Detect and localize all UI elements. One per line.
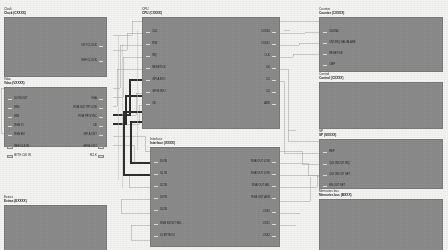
block-memories-bus-body[interactable] <box>319 199 443 250</box>
pin-interface-d1-in[interactable]: D1 IN <box>153 173 167 177</box>
pin-pad-icon[interactable] <box>271 197 276 200</box>
pin-pad-icon[interactable] <box>271 211 276 214</box>
pin-interface-rgb-out-adr[interactable]: RGB OUT ADR <box>251 197 276 201</box>
block-extras[interactable]: Extras Extras (EXXXX) <box>4 196 107 250</box>
pin-video-rgb-en[interactable]: RGB EN <box>7 134 24 138</box>
block-memories-bus[interactable]: Memories bus Memories bus (MXXX) <box>319 190 443 250</box>
pin-cpu-gpi-b-in[interactable]: GPI B IN/O <box>145 91 165 95</box>
pin-cpu-d2[interactable]: D2 <box>266 91 276 95</box>
block-sp[interactable]: SP SP (SXXXX) REF CLK IN/OUT IRQ CLK IN/… <box>319 130 443 189</box>
pin-pad-icon[interactable] <box>7 125 12 128</box>
pin-interface-d0-in[interactable]: D0 IN <box>153 161 167 165</box>
block-control-body[interactable] <box>319 82 443 129</box>
pin-pad-icon[interactable] <box>271 55 276 58</box>
pin-cpu-adr[interactable]: ADR <box>264 103 277 107</box>
pin-interface-rgb-out-low-0[interactable]: RGB OUT LOW <box>251 161 277 165</box>
pin-pad-icon[interactable] <box>145 103 150 106</box>
pin-cpu-gpi-a-in[interactable]: GPI A IN/O <box>145 79 165 83</box>
pin-interface-cxx2[interactable]: CXX2 <box>263 235 277 239</box>
block-extras-body[interactable] <box>4 205 107 250</box>
pin-interface-rgb-out-sel[interactable]: RGB OUT SEL <box>252 185 277 189</box>
pin-interface-d2-in[interactable]: D2 IN <box>153 185 167 189</box>
pin-pad-icon[interactable] <box>145 55 150 58</box>
pin-pad-icon[interactable] <box>271 161 276 164</box>
pin-pad-icon[interactable] <box>271 67 276 70</box>
block-clock-body[interactable]: OUT CLOCK REF CLOCK <box>4 17 107 77</box>
pin-clock-ref-clock[interactable]: REF CLOCK <box>81 60 103 64</box>
pin-video-rgb-out-pp-low[interactable]: RGB OUT PP LOW <box>73 107 103 111</box>
pin-counter-cmp[interactable]: CMP <box>322 64 335 68</box>
pin-counter-reset-ce[interactable]: RESET/CE <box>322 53 342 57</box>
pin-cpu-cxxx0[interactable]: CXXX0 <box>261 31 277 35</box>
pin-interface-cxx0[interactable]: CXX0 <box>263 211 277 215</box>
block-clock[interactable]: Clock Clock (CXXXX) OUT CLOCK REF CLOCK <box>4 8 107 77</box>
pin-pad-icon[interactable] <box>98 98 103 101</box>
pin-interface-rgb-in-out-sel[interactable]: RGB IN/OUT SEL <box>153 223 181 227</box>
pin-cpu-irq[interactable]: IRQ <box>145 55 157 59</box>
pin-pad-icon[interactable] <box>271 91 276 94</box>
block-cpu[interactable]: CPU CPU (CXXXX) CLK R/W IRQ RESET/CS GPI… <box>142 8 280 129</box>
pin-cpu-cxxx1[interactable]: CXXX1 <box>261 43 277 47</box>
pin-clock-out-clock[interactable]: OUT CLOCK <box>81 45 104 49</box>
pin-pad-icon[interactable] <box>98 134 103 137</box>
pin-pad-icon[interactable] <box>271 173 276 176</box>
pin-pad-icon[interactable] <box>98 116 103 119</box>
pin-video-rclk[interactable]: RCLK <box>90 155 104 159</box>
pin-cpu-ce[interactable]: CE <box>145 103 156 107</box>
pin-video-gpi-a-out[interactable]: GPI A OUT <box>84 134 104 138</box>
pin-cpu-reset-cs[interactable]: RESET/CS <box>145 67 165 71</box>
pin-pad-icon[interactable] <box>322 42 327 45</box>
pin-pad-icon[interactable] <box>322 64 327 67</box>
pin-pad-icon[interactable] <box>98 60 103 63</box>
pin-pad-icon[interactable] <box>153 235 158 238</box>
pin-pad-icon[interactable] <box>98 45 103 48</box>
pin-pad-icon[interactable] <box>153 209 158 212</box>
pin-pad-icon[interactable] <box>271 103 276 106</box>
pin-sp-en-out-set[interactable]: EN OUT SET <box>322 185 345 189</box>
pin-pad-icon[interactable] <box>145 79 150 82</box>
pin-pad-icon[interactable] <box>145 31 150 34</box>
pin-pad-icon[interactable] <box>271 31 276 34</box>
block-interface-body[interactable]: D0 IN D1 IN D2 IN D3 IN D4 IN RGB IN/OUT… <box>150 147 280 247</box>
pin-pad-icon[interactable] <box>271 185 276 188</box>
pin-pad-icon[interactable] <box>153 173 158 176</box>
pin-counter-clkin0[interactable]: CLKIN0 <box>322 31 338 35</box>
pin-interface-rgb-out-low-1[interactable]: RGB OUT LOW <box>251 173 277 177</box>
pin-pad-icon[interactable] <box>7 107 12 110</box>
pin-cpu-clk-out[interactable]: CLK <box>265 55 277 59</box>
pin-pad-icon[interactable] <box>271 223 276 226</box>
pin-pad-icon[interactable] <box>271 43 276 46</box>
pin-pad-icon[interactable] <box>7 155 12 158</box>
pin-pad-icon[interactable] <box>7 116 12 119</box>
block-video[interactable]: Vdac Vdac (VXXXX) D0 IN/OUT EN0 EN1 RGB … <box>4 78 107 147</box>
block-counter-body[interactable]: CLKIN0 CNT/IRQ SEL/BLANK RESET/CE CMP <box>319 17 443 72</box>
pin-pad-icon[interactable] <box>322 163 327 166</box>
pin-pad-icon[interactable] <box>145 91 150 94</box>
pin-pad-icon[interactable] <box>322 151 327 154</box>
pin-pad-icon[interactable] <box>98 107 103 110</box>
pin-pad-icon[interactable] <box>322 174 327 177</box>
pin-pad-icon[interactable] <box>7 146 12 149</box>
pin-cpu-clk[interactable]: CLK <box>145 31 157 35</box>
pin-pad-icon[interactable] <box>271 235 276 238</box>
pin-pad-icon[interactable] <box>322 31 327 34</box>
pin-pad-icon[interactable] <box>153 197 158 200</box>
pin-pad-icon[interactable] <box>145 67 150 70</box>
pin-pad-icon[interactable] <box>153 185 158 188</box>
pin-interface-d4-in[interactable]: D4 IN <box>153 209 167 213</box>
pin-pad-icon[interactable] <box>153 223 158 226</box>
pin-video-d0-io[interactable]: D0 IN/OUT <box>7 98 27 102</box>
block-cpu-body[interactable]: CLK R/W IRQ RESET/CS GPI A IN/O GPI B IN… <box>142 17 280 129</box>
pin-pad-icon[interactable] <box>145 43 150 46</box>
pin-sp-clk-in-out-set[interactable]: CLK IN/OUT SET <box>322 174 350 178</box>
pin-video-gpi-b-out[interactable]: GPI B OUT <box>83 146 104 150</box>
block-sp-body[interactable]: REF CLK IN/OUT IRQ CLK IN/OUT SET EN OUT… <box>319 139 443 189</box>
block-interface[interactable]: Interface Interface (IXXXX) D0 IN D1 IN … <box>150 138 280 247</box>
block-control[interactable]: Control Control (CXXXX) <box>319 73 443 129</box>
pin-video-rgb-io[interactable]: RGB IO <box>7 125 23 129</box>
pin-interface-cxx1[interactable]: CXX1 <box>263 223 277 227</box>
pin-counter-cnt-irq-sel-blank[interactable]: CNT/IRQ SEL/BLANK <box>322 42 355 46</box>
pin-video-rgb-pp-sync[interactable]: RGB PP SYNC <box>79 116 104 120</box>
pin-video-byte-clk-in[interactable]: BYTE CLK IN <box>7 155 30 159</box>
pin-pad-icon[interactable] <box>153 161 158 164</box>
